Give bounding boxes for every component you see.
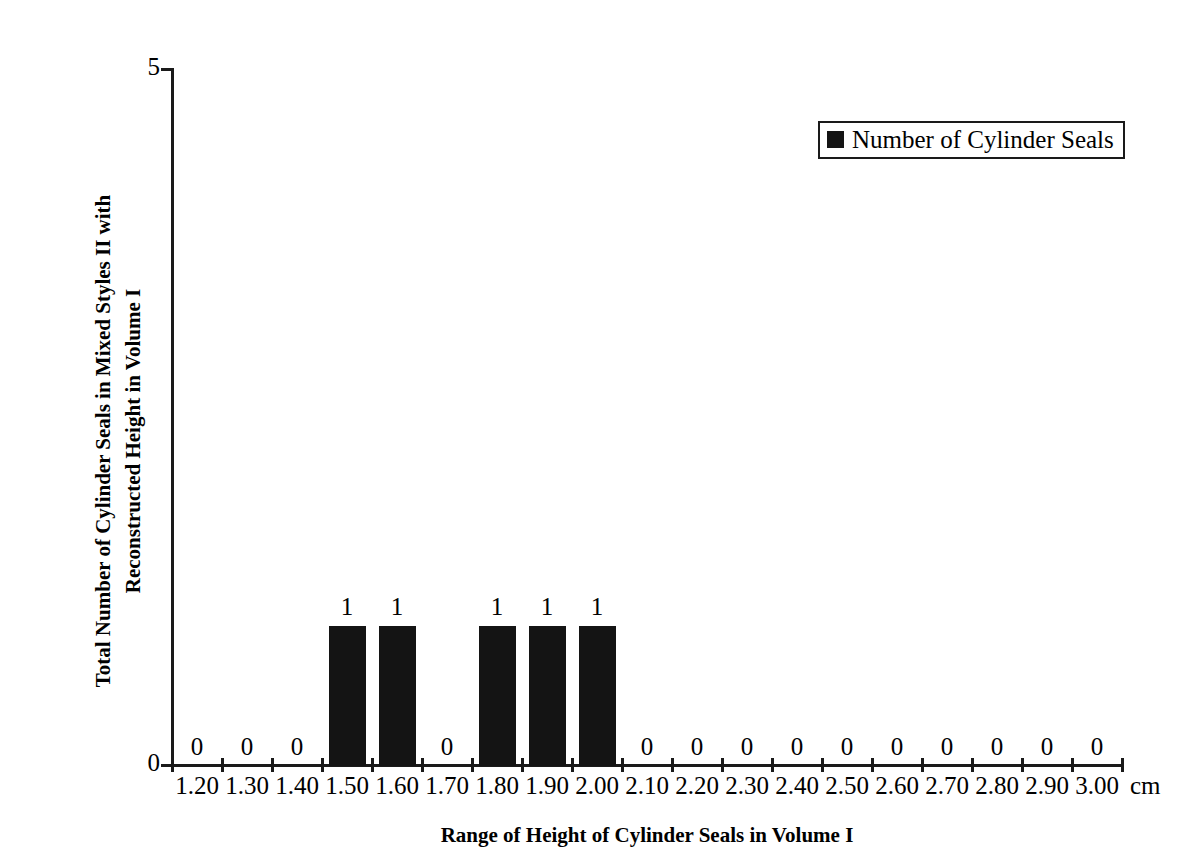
x-axis-tick (271, 758, 274, 772)
y-axis-tick-label-max: 5 (140, 54, 160, 79)
legend-label: Number of Cylinder Seals (852, 126, 1114, 153)
y-axis-line (171, 68, 174, 768)
x-axis-tick (221, 758, 224, 772)
x-axis-title: Range of Height of Cylinder Seals in Vol… (172, 822, 1122, 848)
bar (479, 626, 516, 766)
x-axis-tick (721, 758, 724, 772)
legend-swatch-icon (827, 131, 844, 148)
x-axis-line (171, 764, 1122, 767)
bar-value-label: 0 (267, 734, 327, 759)
bar (579, 626, 616, 766)
x-axis-tick (1071, 758, 1074, 772)
bar-value-label: 1 (367, 594, 427, 619)
bar-value-label: 0 (1067, 734, 1127, 759)
x-axis-tick (921, 758, 924, 772)
bar-value-label: 0 (417, 734, 477, 759)
x-axis-tick (571, 758, 574, 772)
x-axis-tick (521, 758, 524, 772)
x-axis-tick (621, 758, 624, 772)
x-axis-tick (671, 758, 674, 772)
y-axis-title-line-1: Total Number of Cylinder Seals in Mixed … (88, 91, 118, 791)
y-axis-tick-top (161, 68, 172, 71)
x-axis-tick (471, 758, 474, 772)
legend: Number of Cylinder Seals (818, 121, 1125, 159)
y-axis-title-line-2: Reconstructed Height in Volume I (118, 91, 148, 791)
x-axis-tick (421, 758, 424, 772)
x-axis-tick (871, 758, 874, 772)
x-axis-tick (1121, 758, 1124, 772)
bar (379, 626, 416, 766)
bar (329, 626, 366, 766)
bar (529, 626, 566, 766)
x-axis-tick (371, 758, 374, 772)
x-axis-tick (771, 758, 774, 772)
x-axis-tick (1021, 758, 1024, 772)
x-axis-tick-label: 3.00 (1057, 772, 1137, 800)
x-axis-tick (971, 758, 974, 772)
x-axis-tick (321, 758, 324, 772)
y-axis-title: Total Number of Cylinder Seals in Mixed … (88, 91, 148, 791)
bar-value-label: 1 (567, 594, 627, 619)
x-axis-tick (821, 758, 824, 772)
x-axis-unit-label: cm (1130, 772, 1161, 800)
x-axis-tick (171, 758, 174, 772)
bar-chart: 5 0 1.201.301.401.501.601.701.801.902.00… (0, 0, 1199, 859)
